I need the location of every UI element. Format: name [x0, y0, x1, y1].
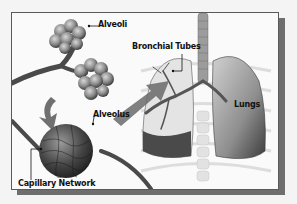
- label-bronchial-tubes: Bronchial Tubes: [132, 42, 201, 51]
- label-alveolus: Alveolus: [93, 110, 130, 119]
- alveoli-cluster-middle: [74, 58, 114, 100]
- alveoli-cluster-top: [49, 19, 86, 54]
- capillary-network-sphere: [39, 124, 93, 178]
- label-alveoli: Alveoli: [98, 20, 127, 29]
- spine: [197, 111, 209, 181]
- arrow-to-alveolus: [39, 97, 57, 131]
- label-capillary-network: Capillary Network: [18, 179, 95, 188]
- label-lungs: Lungs: [234, 100, 260, 109]
